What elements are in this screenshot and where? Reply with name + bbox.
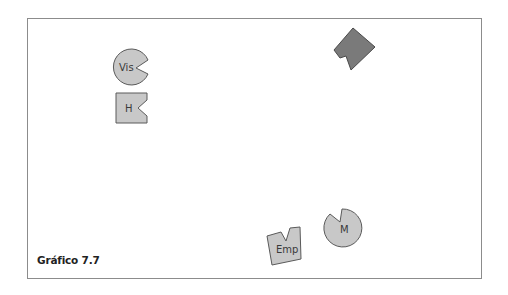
diamond-icon	[334, 28, 375, 70]
shape-vis: Vis	[113, 49, 148, 85]
h-label: H	[125, 103, 133, 114]
diagram-canvas: Vis H Emp M	[0, 0, 508, 295]
shape-emp: Emp	[267, 227, 301, 265]
m-label: M	[340, 224, 349, 235]
emp-label: Emp	[276, 244, 298, 255]
shape-h: H	[116, 93, 147, 123]
shape-m: M	[324, 209, 362, 247]
figure-caption: Gráfico 7.7	[37, 254, 100, 266]
vis-label: Vis	[119, 62, 134, 73]
shape-dark-diamond	[334, 28, 375, 70]
